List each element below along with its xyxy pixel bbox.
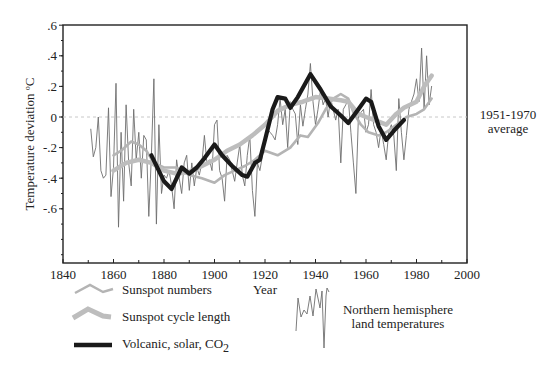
y-tick-label: .2	[47, 79, 57, 94]
legend-item-sunspot-cycle-length: Sunspot cycle length	[73, 309, 231, 324]
reference-annotation-line1: 1951-1970	[480, 107, 536, 122]
legend-label-sunspot-numbers: Sunspot numbers	[122, 282, 212, 297]
x-tick-label: 2000	[454, 267, 480, 282]
legend-glyph-sunspot-numbers-icon	[75, 285, 113, 293]
y-tick-label: 0	[51, 110, 58, 125]
x-tick-label: 1940	[303, 267, 329, 282]
x-tick-label: 1880	[151, 267, 177, 282]
series-northern-hemisphere-land-temperatures	[91, 48, 432, 227]
legend-item-volcanic-solar-co2: Volcanic, solar, CO2	[74, 336, 229, 355]
legend-label-sunspot-cycle-length: Sunspot cycle length	[122, 309, 231, 324]
y-axis-title: Temperature deviation ºC	[22, 77, 37, 210]
legend-label-northern-hemisphere-line1: Northern hemisphere	[343, 302, 453, 317]
x-tick-label: 1900	[202, 267, 228, 282]
y-tick-label: .6	[47, 18, 57, 33]
x-tick-label: 1920	[252, 267, 278, 282]
series-layer	[91, 48, 432, 227]
y-tick-label: -.2	[43, 140, 57, 155]
y-axis-ticks: .6.4.20-.2-.4-.6	[43, 18, 63, 255]
x-tick-label: 1840	[50, 267, 76, 282]
legend-label-northern-hemisphere-line2: land temperatures	[352, 316, 445, 331]
legend-label-volcanic-solar-co2: Volcanic, solar, CO2	[122, 336, 229, 355]
x-tick-label: 1980	[404, 267, 430, 282]
y-tick-label: .4	[47, 48, 57, 63]
legend-glyph-northern-hemisphere-icon	[296, 288, 329, 348]
x-tick-label: 1960	[353, 267, 379, 282]
x-tick-label: 1860	[101, 267, 127, 282]
reference-annotation-line2: average	[488, 121, 529, 136]
y-tick-label: -.6	[43, 201, 58, 216]
legend-glyph-sunspot-cycle-length-icon	[73, 309, 111, 318]
series-sunspot-cycle-length	[114, 76, 432, 174]
x-axis-title: Year	[253, 282, 278, 297]
y-tick-label: -.4	[43, 171, 58, 186]
legend-item-northern-hemisphere: Northern hemisphere land temperatures	[296, 288, 453, 348]
temperature-deviation-chart: .6.4.20-.2-.4-.6 18401860188019001920194…	[0, 0, 549, 374]
legend-item-sunspot-numbers: Sunspot numbers	[75, 282, 212, 297]
